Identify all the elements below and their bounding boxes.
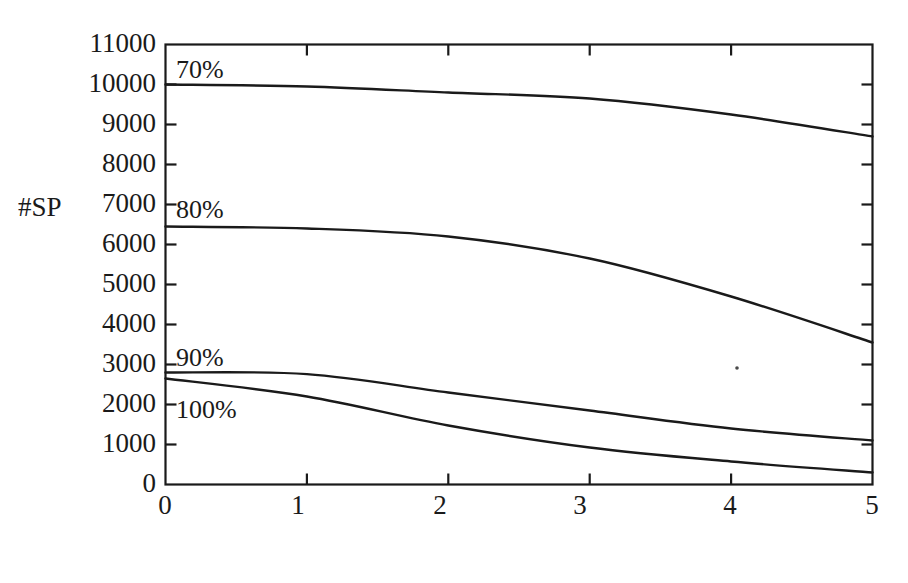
curve-80pct xyxy=(166,227,873,343)
curve-90pct xyxy=(166,372,873,440)
data-curves xyxy=(166,85,873,473)
x-tick-marks xyxy=(307,45,731,485)
chart-figure: #SP 11000 10000 9000 8000 7000 6000 5000… xyxy=(0,0,908,583)
curve-70pct xyxy=(166,85,873,137)
plot-area xyxy=(0,0,908,583)
scan-speck xyxy=(735,366,739,370)
curve-100pct xyxy=(166,379,873,473)
plot-frame xyxy=(166,45,873,485)
